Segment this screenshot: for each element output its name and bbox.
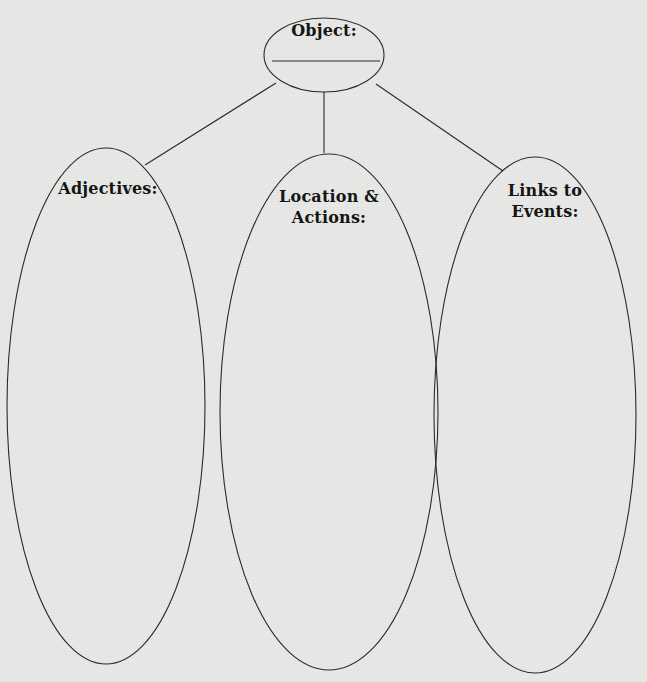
adjectives-label: Adjectives: (46, 178, 170, 199)
location-actions-label-line-2: Actions: (264, 207, 394, 228)
object-label-text: Object: (291, 21, 357, 40)
object-label: Object: (264, 20, 384, 41)
location-actions-label-line-1: Location & (264, 186, 394, 207)
location-actions-label: Location & Actions: (264, 186, 394, 228)
links-to-events-label-line-2: Events: (490, 201, 600, 222)
links-to-events-label: Links to Events: (490, 180, 600, 222)
links-to-events-label-line-1: Links to (490, 180, 600, 201)
worksheet-canvas: Object: Adjectives: Location & Actions: … (0, 0, 647, 682)
adjectives-ellipse[interactable] (7, 148, 205, 664)
connector-object-to-links (376, 84, 503, 171)
links-to-events-ellipse[interactable] (434, 157, 636, 673)
location-actions-ellipse[interactable] (220, 154, 438, 670)
connector-object-to-adjectives (145, 83, 276, 165)
organizer-diagram (0, 0, 647, 682)
adjectives-label-text: Adjectives: (58, 179, 157, 198)
